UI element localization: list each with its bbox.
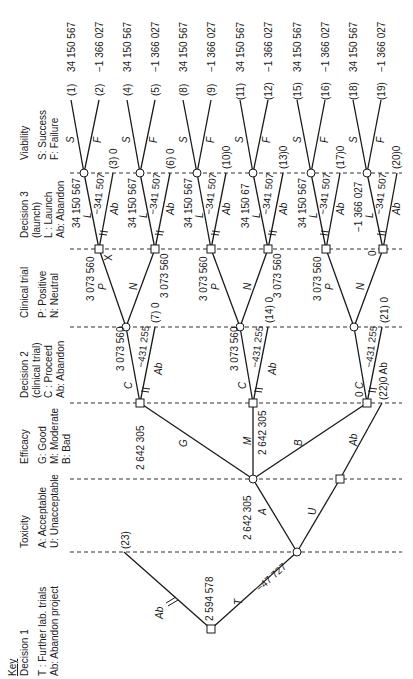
key-title: Key <box>7 659 18 676</box>
eff-g-label: G <box>178 439 189 447</box>
viability-chance-node-6-icon <box>363 169 371 177</box>
key-efficacy-line1: G: Good <box>37 426 48 464</box>
v2-s-label: S <box>121 136 132 143</box>
decision3-node-5-icon <box>322 245 330 253</box>
d3-4-value: 34 150 67 <box>240 183 251 228</box>
edge-tox-unacceptable <box>297 479 340 552</box>
payoff-11: 34 150 567 <box>235 22 246 72</box>
d2c-cost: −431 255 <box>363 325 379 368</box>
hash-d2-icons <box>141 388 377 392</box>
terminal-21: (21) 0 <box>379 296 390 323</box>
cl3-p-label: P <box>324 283 335 290</box>
d2b-cost: −431 255 <box>249 325 265 368</box>
decision2-node-moderate-icon <box>249 399 257 407</box>
labels-decision3: 34 150 567 L −341 507 Ab (3) 0 34 150 56… <box>71 145 402 232</box>
key-decision3-heading: Decision 3 <box>19 191 30 238</box>
terminal-19: (19) <box>376 82 387 100</box>
tree-nodes <box>80 169 387 633</box>
v1-f-label: F <box>92 136 103 143</box>
terminal-22: (22)0 Ab <box>378 362 389 400</box>
decision2-node-bad-icon <box>363 399 371 407</box>
terminal-4: (4) <box>122 84 133 96</box>
d2b-value: 3 073 560 <box>229 326 240 371</box>
v6-f-label: F <box>375 136 386 143</box>
d2a-c-label: C <box>123 381 134 389</box>
key-decision2-line1: (clinical trial) <box>31 342 42 398</box>
key-decision2-heading: Decision 2 <box>19 351 30 398</box>
d3-3-ab-label: Ab <box>221 202 232 216</box>
key-decision1-heading: Decision 1 <box>19 629 30 676</box>
d1-t-label: T <box>233 598 244 605</box>
terminal-3: (3) 0 <box>108 148 119 169</box>
edge-v1-failure <box>84 100 99 173</box>
eff-m-value: 2 642 305 <box>257 410 268 455</box>
d2c-value: 0 <box>354 391 365 397</box>
v4-s-label: S <box>234 136 245 143</box>
payoff-19: −1 366 027 <box>376 21 387 72</box>
terminal-17: (17)0 <box>335 145 346 169</box>
edge-d1-trials <box>211 552 297 629</box>
tox-a-value: 2 642 305 <box>242 495 253 540</box>
key-toxicity-heading: Toxicity <box>19 515 30 548</box>
v6-s-label: S <box>348 136 359 143</box>
labels-viability: S F (1) 34 150 567 (2) −1 366 027 S F (4… <box>65 21 387 143</box>
edge-v5-failure <box>311 100 325 173</box>
decision1-node-icon <box>207 625 215 633</box>
viability-chance-node-1-icon <box>80 169 88 177</box>
terminal-8: (8) <box>178 84 189 96</box>
decision3-node-2-icon <box>151 245 159 253</box>
v3-f-label: F <box>205 136 216 143</box>
edge-unacceptable-abandon <box>340 403 382 479</box>
payoff-2: −1 366 027 <box>94 21 105 72</box>
decision3-node-4-icon <box>264 245 272 253</box>
labels-lower: 2 594 578 Ab T −47 727 (23) 2 642 305 A … <box>120 410 359 621</box>
tox-a-label: A <box>257 508 268 516</box>
terminal-23: (23) <box>120 531 131 549</box>
d3-1-ab-label: Ab <box>109 202 120 216</box>
cl1-x-marker: X <box>103 254 114 261</box>
d3-2-ab-label: Ab <box>165 202 176 216</box>
d3-5-ab-label: Ab <box>335 202 346 216</box>
key-decision3-line2: L : Launch <box>43 192 54 238</box>
payoff-15: 34 150 567 <box>292 22 303 72</box>
edge-v2-failure <box>140 100 155 173</box>
cl1-n-value: 3 073 560 <box>159 253 170 298</box>
v5-f-label: F <box>319 136 330 143</box>
d3-4-cost: −341 507 <box>260 172 275 215</box>
key-decision3-line1: (launch) <box>31 202 42 238</box>
payoff-1: 34 150 567 <box>66 22 77 72</box>
key-efficacy-line3: B: Bad <box>61 434 72 464</box>
payoff-4: 34 150 567 <box>122 22 133 72</box>
key-decision2-line2: C : Proceed <box>43 345 54 398</box>
key-decision3-line3: Ab: Abandon <box>55 181 66 238</box>
cl3-n-label: N <box>355 282 366 290</box>
d3-2-cost: −341 507 <box>147 172 162 215</box>
terminal-15: (15) <box>292 82 303 100</box>
viability-chance-node-4-icon <box>249 169 257 177</box>
terminal-7: (7) 0 <box>150 302 161 323</box>
d2b-c-label: C <box>237 381 248 389</box>
terminal-6: (6) 0 <box>165 148 176 169</box>
v3-s-label: S <box>178 136 189 143</box>
payoff-9: −1 366 027 <box>206 21 217 72</box>
terminal-10: (10)0 <box>221 145 232 169</box>
cl1-n-label: N <box>128 282 139 290</box>
cl2-n-label: N <box>242 282 253 290</box>
edge-v6-failure <box>367 100 381 173</box>
key-decision1-line1: T : Further lab. trials <box>37 587 48 676</box>
key-toxicity-line1: A: Acceptable <box>37 486 48 548</box>
decision3-node-1-icon <box>95 245 103 253</box>
cl3-n-value: 0 <box>367 250 378 256</box>
decision3-node-3-icon <box>207 245 215 253</box>
payoff-16: −1 366 027 <box>320 21 331 72</box>
v4-f-label: F <box>261 136 272 143</box>
decision-tree-diagram: Key Decision 1 T : Further lab. trials A… <box>0 0 413 679</box>
d3-6-cost: −341 507 <box>373 172 388 215</box>
d3-3-cost: −341 507 <box>203 172 218 215</box>
d3-6-value: −1 366 027 <box>353 181 364 232</box>
d2c-c-label: C <box>354 381 365 389</box>
cl3-p-value: 3 073 560 <box>312 256 323 301</box>
eff-m-label: M <box>242 436 253 445</box>
d1-t-cost: −47 727 <box>254 561 289 594</box>
edge-d1-abandon <box>124 552 211 629</box>
